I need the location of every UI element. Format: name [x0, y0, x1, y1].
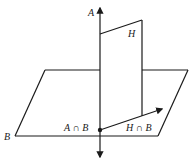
- label-h-intersect-b: H ∩ B: [125, 122, 152, 133]
- point-a-intersect-b: [98, 128, 102, 132]
- plane-intersection-diagram: A H B A ∩ B H ∩ B: [0, 0, 192, 168]
- label-a: A: [87, 7, 95, 18]
- plane-b: [15, 70, 188, 136]
- label-a-intersect-b: A ∩ B: [63, 122, 88, 133]
- label-b: B: [4, 131, 10, 142]
- plane-h: [100, 20, 142, 116]
- label-h: H: [127, 28, 136, 39]
